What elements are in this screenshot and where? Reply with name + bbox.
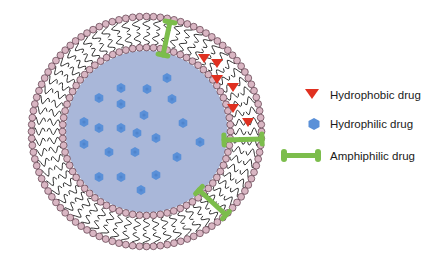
inner-head: [116, 208, 123, 215]
lipid-tail: [170, 36, 177, 48]
lipid-tail: [125, 34, 132, 46]
inner-head: [116, 49, 123, 56]
red-triangle-icon: [304, 88, 320, 100]
inner-head: [109, 51, 116, 58]
lipid-tail: [223, 173, 234, 181]
lipid-tail: [143, 219, 150, 232]
outer-head: [109, 238, 116, 245]
lipid-tail: [193, 204, 201, 215]
outer-head: [109, 18, 116, 25]
outer-head: [190, 233, 197, 240]
lipid-tail: [59, 171, 70, 179]
legend-label-amphiphilic: Amphiphilic drug: [330, 149, 415, 163]
lipid-tail: [100, 44, 108, 55]
inner-head: [122, 47, 129, 54]
inner-head: [136, 44, 143, 51]
lipid-tail: [152, 33, 159, 45]
inner-head: [103, 54, 110, 61]
outer-head: [197, 230, 204, 237]
inner-head: [136, 212, 143, 219]
legend-label-hydrophilic: Hydrophilic drug: [330, 117, 413, 131]
outer-head: [96, 233, 103, 240]
inner-head: [69, 168, 76, 175]
outer-head: [190, 23, 197, 30]
outer-head: [197, 26, 204, 33]
outer-head: [157, 14, 164, 21]
inner-head: [177, 51, 184, 58]
lipid-tail: [115, 215, 122, 227]
outer-head: [171, 240, 178, 247]
lipid-tail: [186, 208, 194, 219]
lipid-tail: [219, 180, 230, 189]
lipid-tail: [76, 60, 86, 70]
inner-head: [150, 44, 157, 51]
outer-head: [102, 236, 109, 243]
lipid-tail: [183, 225, 191, 237]
outer-head: [122, 15, 129, 22]
lipid-tail: [106, 212, 114, 224]
lipid-tail: [108, 40, 115, 52]
outer-head: [102, 21, 109, 28]
outer-head: [136, 13, 143, 20]
outer-head: [45, 188, 52, 195]
inner-head: [129, 45, 136, 52]
inner-head: [59, 135, 66, 142]
inner-head: [129, 211, 136, 218]
lipid-tail: [116, 36, 123, 48]
outer-head: [143, 243, 150, 250]
outer-head: [129, 242, 136, 249]
lipid-tail: [188, 44, 196, 55]
outer-head: [164, 241, 171, 248]
lipid-tail: [134, 218, 141, 230]
inner-head: [97, 58, 104, 65]
outer-head: [136, 243, 143, 250]
legend-item-hydrophilic: Hydrophilic drug: [0, 114, 442, 134]
outer-head: [157, 242, 164, 249]
lipid-tail: [82, 198, 91, 208]
lipid-tail: [152, 218, 159, 230]
outer-head: [245, 75, 252, 82]
outer-head: [248, 175, 255, 182]
lipid-tail: [170, 215, 177, 227]
outer-head: [116, 240, 123, 247]
lipid-tail: [124, 217, 131, 229]
lipid-tail: [48, 137, 60, 144]
outer-head: [184, 21, 191, 28]
lipid-tail: [41, 168, 53, 176]
outer-head: [41, 182, 48, 189]
outer-head: [177, 238, 184, 245]
legend-item-hydrophobic: Hydrophobic drug: [0, 85, 442, 105]
lipid-tail: [69, 186, 79, 195]
legend-item-amphiphilic: Amphiphilic drug: [0, 145, 442, 165]
lipid-tail: [63, 178, 74, 186]
outer-head: [184, 236, 191, 243]
inner-head: [109, 205, 116, 212]
outer-head: [177, 18, 184, 25]
green-bar-icon: [279, 147, 323, 163]
inner-head: [103, 202, 110, 209]
lipid-tail: [98, 208, 106, 219]
lipid-tail: [178, 212, 185, 224]
blue-hexagon-icon: [307, 117, 321, 131]
lipid-tail: [70, 67, 80, 76]
inner-head: [143, 212, 150, 219]
inner-head: [170, 208, 177, 215]
lipid-tail: [179, 40, 187, 52]
inner-head: [150, 212, 157, 219]
lipid-tail: [91, 48, 99, 59]
outer-head: [203, 227, 210, 234]
outer-head: [251, 169, 258, 176]
inner-head: [189, 198, 196, 205]
inner-head: [177, 205, 184, 212]
lipid-tail: [83, 54, 92, 64]
outer-head: [242, 69, 249, 76]
outer-head: [90, 230, 97, 237]
outer-head: [36, 169, 43, 176]
outer-head: [150, 243, 157, 250]
outer-head: [84, 30, 91, 37]
inner-head: [183, 202, 190, 209]
lipid-tail: [161, 217, 168, 229]
legend-label-hydrophobic: Hydrophobic drug: [330, 88, 421, 102]
outer-head: [28, 135, 35, 142]
outer-head: [129, 14, 136, 21]
